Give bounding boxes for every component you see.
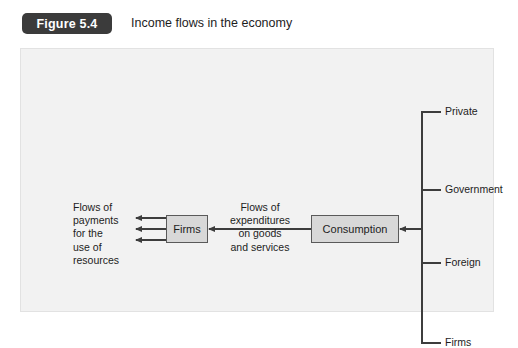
figure-title: Income flows in the economy: [131, 14, 292, 33]
arrow-firms-to-payments-2: [136, 228, 166, 230]
bracket-label-firms: Firms: [445, 336, 471, 348]
bracket-label-foreign: Foreign: [445, 256, 481, 268]
annotation-flows-of-payments: Flows of payments for the use of resourc…: [73, 201, 135, 267]
arrow-firms-to-payments-1: [136, 217, 166, 219]
annotation-flows-of-expenditures: Flows of expenditures on goods and servi…: [217, 201, 303, 254]
bracket-stub-private: [421, 111, 441, 113]
figure-number-badge: Figure 5.4: [22, 13, 112, 34]
bracket-spine: [421, 111, 423, 343]
node-firms: Firms: [166, 215, 208, 243]
bracket-stub-firms: [421, 342, 441, 344]
bracket-label-private: Private: [445, 105, 478, 117]
diagram-panel: Firms Consumption Flows of payments for …: [20, 48, 494, 312]
arrow-firms-to-payments-3: [136, 239, 166, 241]
node-consumption: Consumption: [311, 215, 399, 243]
bracket-label-government: Government: [445, 183, 503, 195]
arrow-sectors-to-consumption: [400, 228, 421, 230]
bracket-stub-government: [421, 189, 441, 191]
bracket-stub-foreign: [421, 262, 441, 264]
